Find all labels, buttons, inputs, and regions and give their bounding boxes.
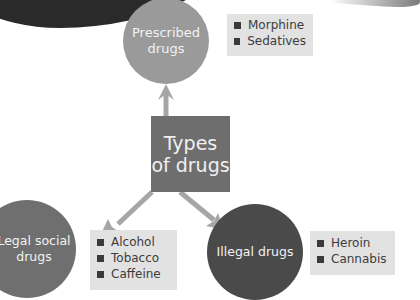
arrow-to-illegal — [180, 192, 214, 220]
node-illegal-drugs: Illegal drugs — [207, 204, 303, 300]
list-item-label: Morphine — [248, 17, 304, 33]
square-bullet-icon — [234, 22, 241, 29]
list-item-label: Alcohol — [111, 234, 155, 250]
square-bullet-icon — [97, 239, 104, 246]
square-bullet-icon — [317, 256, 324, 263]
list-item: Caffeine — [97, 266, 169, 282]
list-item-label: Cannabis — [331, 251, 387, 267]
center-label: of drugs — [151, 154, 229, 176]
list-item: Sedatives — [234, 33, 306, 49]
list-item: Heroin — [317, 235, 387, 251]
node-label: drugs — [0, 249, 71, 265]
list-illegal-drugs: Heroin Cannabis — [310, 231, 395, 275]
node-label: Illegal drugs — [217, 244, 294, 260]
list-item: Tobacco — [97, 250, 169, 266]
center-label: Types — [164, 132, 218, 154]
square-bullet-icon — [97, 271, 104, 278]
node-prescribed-drugs: Prescribed drugs — [123, 0, 209, 84]
square-bullet-icon — [317, 240, 324, 247]
list-legal-social-drugs: Alcohol Tobacco Caffeine — [90, 230, 177, 290]
list-item-label: Heroin — [331, 235, 370, 251]
node-label: Prescribed — [132, 25, 200, 41]
node-label: Legal social — [0, 233, 71, 249]
list-item-label: Sedatives — [247, 33, 306, 49]
list-item-label: Tobacco — [111, 250, 159, 266]
list-item: Alcohol — [97, 234, 169, 250]
node-label: drugs — [132, 41, 200, 57]
arrow-to-legal — [118, 192, 152, 224]
list-item: Morphine — [234, 17, 306, 33]
square-bullet-icon — [234, 38, 240, 45]
list-item: Cannabis — [317, 251, 387, 267]
list-prescribed-drugs: Morphine Sedatives — [227, 14, 313, 56]
list-item-label: Caffeine — [111, 266, 161, 282]
square-bullet-icon — [97, 255, 104, 262]
center-node-types-of-drugs: Types of drugs — [151, 116, 230, 192]
